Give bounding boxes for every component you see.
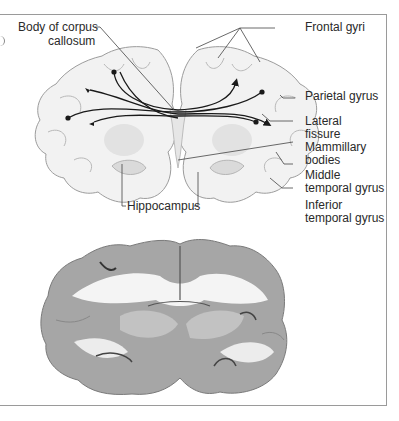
label-inferior-temporal-line2: temporal gyrus (305, 211, 384, 225)
coronal-section-photo (41, 240, 287, 395)
label-inferior-temporal-line1: Inferior (305, 198, 342, 212)
label-corpus-callosum-line2: callosum (48, 34, 95, 48)
label-hippocampus: Hippocampus (127, 199, 200, 213)
left-hemisphere (35, 47, 176, 203)
label-mammillary-line1: Mammillary (305, 140, 366, 154)
label-mammillary-line2: bodies (305, 153, 340, 167)
label-corpus-callosum-line1: Body of corpus (18, 20, 98, 34)
label-middle-temporal-line1: Middle (305, 168, 340, 182)
label-frontal-gyri: Frontal gyri (305, 20, 365, 34)
label-parietal-gyrus: Parietal gyrus (305, 89, 378, 103)
right-hemisphere (178, 47, 319, 203)
label-lateral-fissure-line2: fissure (305, 127, 340, 141)
label-middle-temporal-line2: temporal gyrus (305, 181, 384, 195)
label-lateral-fissure-line1: Lateral (305, 114, 342, 128)
